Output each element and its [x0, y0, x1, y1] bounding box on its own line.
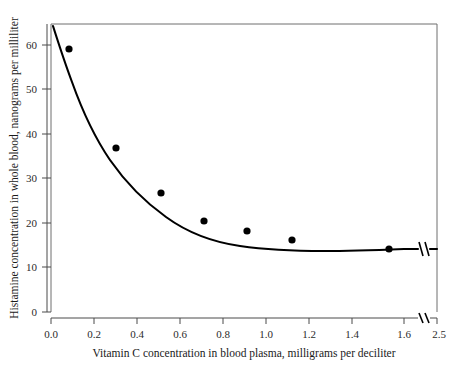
data-point: [112, 144, 119, 151]
x-tick-label: 0.8: [216, 328, 230, 340]
x-tick-label: 0.6: [173, 328, 187, 340]
x-tick-label-break-resume: 2.5: [432, 328, 446, 340]
data-point: [157, 189, 164, 196]
x-tick-label: 0.2: [87, 328, 101, 340]
x-tick-label: 1.2: [302, 328, 316, 340]
data-point: [288, 236, 295, 243]
data-point: [243, 227, 250, 234]
data-point: [65, 45, 72, 52]
y-tick-label: 30: [26, 172, 38, 184]
x-tick-label: 1.0: [259, 328, 273, 340]
x-tick-label: 0.4: [130, 328, 144, 340]
y-tick-label: 60: [26, 39, 38, 51]
y-axis-title: Histamine concentration in whole blood, …: [8, 17, 21, 319]
y-tick-label: 50: [26, 83, 38, 95]
y-tick-label: 40: [26, 128, 38, 140]
y-tick-label: 20: [26, 217, 38, 229]
chart-background: [0, 0, 463, 373]
x-tick-label: 1.6: [397, 328, 411, 340]
figure-container: 0.0 0.2 0.4 0.6 0.8 1.0 1.2 1.4 1.6 2.5 …: [0, 0, 463, 373]
x-tick-label: 1.4: [345, 328, 359, 340]
chart-plot: 0.0 0.2 0.4 0.6 0.8 1.0 1.2 1.4 1.6 2.5 …: [0, 0, 463, 373]
y-tick-label: 10: [26, 261, 38, 273]
data-point: [200, 217, 207, 224]
x-axis-title: Vitamin C concentration in blood plasma,…: [92, 347, 395, 360]
y-tick-label: 0: [32, 306, 38, 318]
data-point: [385, 245, 392, 252]
x-tick-label: 0.0: [44, 328, 58, 340]
